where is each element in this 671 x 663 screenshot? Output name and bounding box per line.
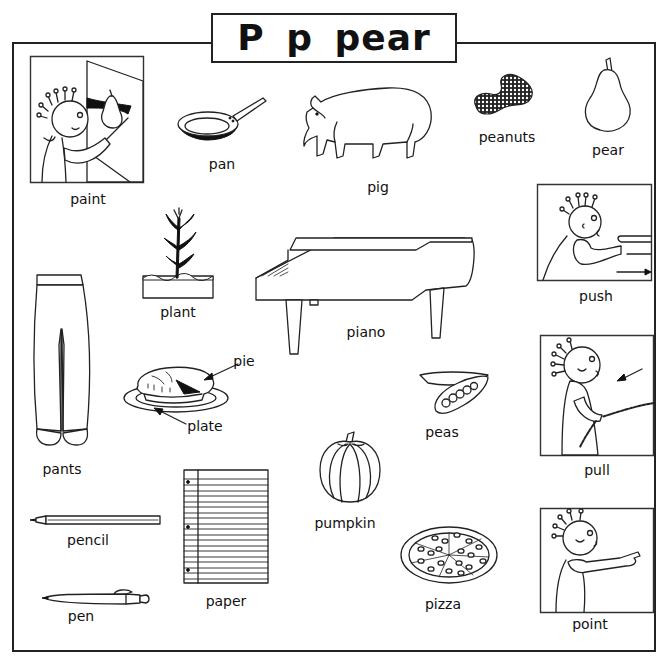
label-pig: pig [367, 180, 389, 194]
label-plant: plant [160, 305, 196, 319]
pig-icon [303, 84, 433, 164]
label-pencil: pencil [67, 533, 109, 547]
pencil-icon [30, 514, 162, 528]
label-paper: paper [206, 594, 247, 608]
label-pumpkin: pumpkin [314, 516, 375, 530]
worksheet-title-box: P p pear [211, 13, 457, 63]
pants-icon [31, 273, 91, 451]
pear-icon [582, 54, 634, 134]
label-pull: pull [584, 463, 610, 477]
label-pie: pie [233, 354, 254, 368]
worksheet-title: P p pear [237, 20, 430, 56]
label-plate: plate [187, 419, 222, 433]
label-paint: paint [70, 192, 106, 206]
person-pulling-rope-icon [540, 335, 656, 457]
label-point: point [572, 617, 608, 631]
lined-paper-icon [183, 469, 271, 585]
pizza-icon [399, 525, 499, 585]
pen-icon [42, 588, 150, 606]
label-pen: pen [68, 609, 94, 623]
person-pushing-icon [537, 184, 654, 282]
label-pizza: pizza [425, 597, 461, 611]
label-peanuts: peanuts [479, 130, 536, 144]
plant-icon [142, 208, 216, 300]
plate-pointer-arrow-icon [150, 406, 190, 426]
person-pointing-icon [540, 508, 656, 614]
label-pear: pear [592, 143, 624, 157]
label-peas: peas [425, 425, 458, 439]
pumpkin-icon [316, 430, 384, 506]
label-pants: pants [42, 462, 81, 476]
frying-pan-icon [177, 96, 267, 142]
peanuts-icon [473, 72, 537, 114]
label-push: push [579, 289, 613, 303]
label-pan: pan [209, 157, 235, 171]
label-piano: piano [347, 325, 386, 339]
person-painting-pear-icon [30, 56, 146, 184]
pea-pod-icon [418, 371, 490, 417]
